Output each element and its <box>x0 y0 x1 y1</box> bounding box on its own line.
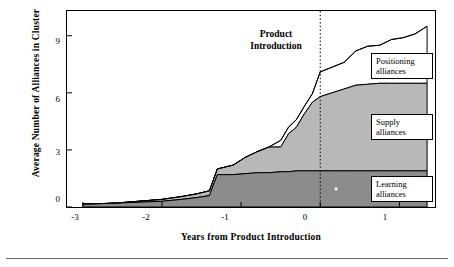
series-label-positioning: Positioning alliances <box>371 53 433 79</box>
data-dot-marker <box>334 187 337 190</box>
y-tick-label-9: 9 <box>40 36 60 46</box>
footer-rule <box>6 258 448 259</box>
y-tick-label-3: 3 <box>40 147 60 157</box>
x-tick-label-1: 1 <box>373 212 397 222</box>
x-tick-label-0: 0 <box>293 212 317 222</box>
y-axis-title: Average Number of Alliances in Cluster <box>31 0 41 193</box>
x-tick-label-minus1: -1 <box>213 212 237 222</box>
series-label-supply: Supply alliances <box>371 114 433 140</box>
y-tick-label-6: 6 <box>40 94 60 104</box>
x-axis-title: Years from Product Introduction <box>66 232 436 242</box>
chart-root: 0 3 6 9 -3 -2 -1 0 1 Average Number of A… <box>0 0 454 267</box>
x-tick-label-minus3: -3 <box>63 212 87 222</box>
y-tick-label-0: 0 <box>40 194 60 204</box>
x-tick-label-minus2: -2 <box>134 212 158 222</box>
series-label-learning: Learning alliances <box>371 176 433 202</box>
annotation-product-introduction: Product Introduction <box>228 28 324 52</box>
